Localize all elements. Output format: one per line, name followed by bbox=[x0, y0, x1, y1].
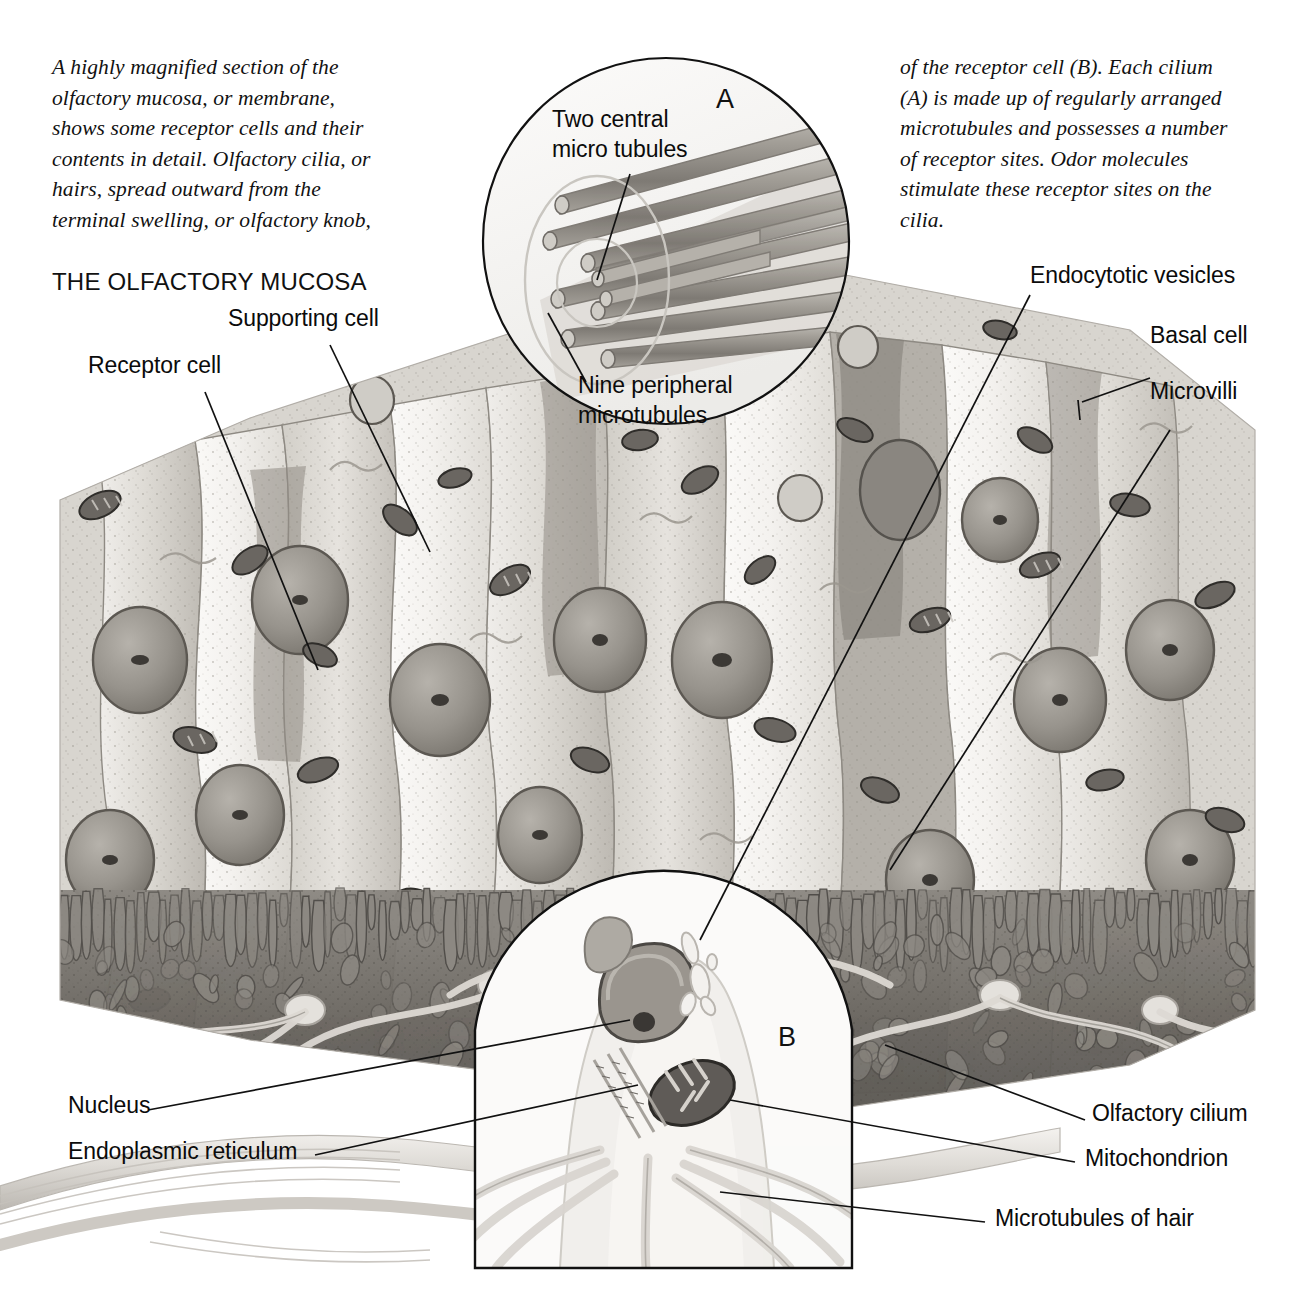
page-title: THE OLFACTORY MUCOSA bbox=[52, 268, 367, 296]
label-olfactory-cilium: Olfactory cilium bbox=[1092, 1100, 1248, 1127]
label-microtubules-of-hair: Microtubules of hair bbox=[995, 1205, 1194, 1232]
label-two-central-microtubules: Two central micro tubules bbox=[552, 104, 687, 164]
label-nucleus: Nucleus bbox=[68, 1092, 150, 1119]
intro-paragraph-left: A highly magnified section of the olfact… bbox=[52, 52, 442, 235]
inset-a-letter: A bbox=[716, 84, 734, 115]
label-endoplasmic-reticulum: Endoplasmic reticulum bbox=[68, 1138, 297, 1165]
label-microvilli: Microvilli bbox=[1150, 378, 1237, 405]
inset-b-letter: B bbox=[778, 1022, 796, 1053]
label-receptor-cell: Receptor cell bbox=[88, 352, 221, 379]
intro-paragraph-right: of the receptor cell (B). Each cilium (A… bbox=[900, 52, 1300, 235]
label-endocytotic-vesicles: Endocytotic vesicles bbox=[1030, 262, 1235, 289]
label-nine-peripheral-microtubules: Nine peripheral microtubules bbox=[578, 370, 732, 430]
label-mitochondrion: Mitochondrion bbox=[1085, 1145, 1228, 1172]
illustration-page: A highly magnified section of the olfact… bbox=[0, 0, 1311, 1310]
label-basal-cell: Basal cell bbox=[1150, 322, 1247, 349]
label-supporting-cell: Supporting cell bbox=[228, 305, 379, 332]
